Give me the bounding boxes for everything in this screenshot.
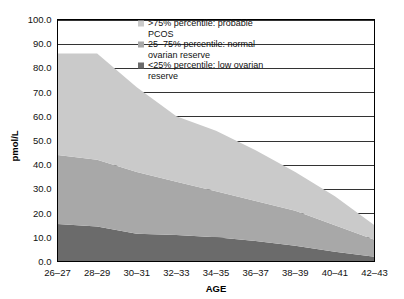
x-tick-label: 36–37 [242, 267, 268, 278]
y-tick-label: 40.0 [33, 159, 52, 170]
y-tick-label: 0.0 [38, 256, 51, 267]
chart-legend: >75% percentile: probablePCOS25–75% perc… [138, 18, 263, 81]
x-tick-label: 42–43 [361, 267, 387, 278]
legend-label-continued: ovarian reserve [148, 50, 210, 60]
y-tick-label: 20.0 [33, 208, 52, 219]
y-tick-label: 100.0 [28, 14, 52, 25]
y-tick-label: 80.0 [33, 62, 52, 73]
x-tick-label: 40–41 [322, 267, 348, 278]
x-tick-label: 34–35 [203, 267, 229, 278]
y-axis-ticks: 0.010.020.030.040.050.060.070.080.090.01… [28, 14, 52, 267]
legend-label: 25–75% percentile: normal [148, 39, 255, 49]
stacked-area-chart: 0.010.020.030.040.050.060.070.080.090.01… [0, 0, 404, 299]
x-tick-label: 28–29 [84, 267, 110, 278]
x-tick-label: 32–33 [163, 267, 189, 278]
y-tick-label: 10.0 [33, 232, 52, 243]
y-tick-label: 90.0 [33, 38, 52, 49]
legend-swatch [138, 21, 144, 27]
x-tick-label: 30–31 [124, 267, 150, 278]
legend-label-continued: PCOS [148, 29, 174, 39]
y-axis-title: pmol/L [9, 130, 20, 161]
y-tick-label: 60.0 [33, 111, 52, 122]
y-tick-label: 50.0 [33, 135, 52, 146]
legend-swatch [138, 42, 144, 48]
x-axis-ticks: 26–2728–2930–3132–3334–3536–3738–3940–41… [44, 267, 387, 278]
legend-swatch [138, 63, 144, 69]
legend-label: <25% percentile: low ovarian [148, 60, 263, 70]
legend-label-continued: reserve [148, 71, 178, 81]
chart-container: 0.010.020.030.040.050.060.070.080.090.01… [0, 0, 404, 299]
x-tick-label: 26–27 [44, 267, 70, 278]
x-axis-title: AGE [206, 283, 227, 294]
area-series-group [58, 53, 375, 261]
legend-label: >75% percentile: probable [148, 18, 253, 28]
y-tick-label: 70.0 [33, 87, 52, 98]
x-tick-label: 38–39 [282, 267, 308, 278]
y-tick-label: 30.0 [33, 183, 52, 194]
